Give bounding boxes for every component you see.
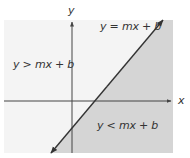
y-axis-label: y [68,5,74,16]
x-axis-label: x [178,95,184,106]
inequality-graph [0,0,190,158]
region-above-label: y > mx + b [13,59,74,70]
line-equation-label: y = mx + b [100,21,161,32]
region-below-label: y < mx + b [97,120,158,131]
